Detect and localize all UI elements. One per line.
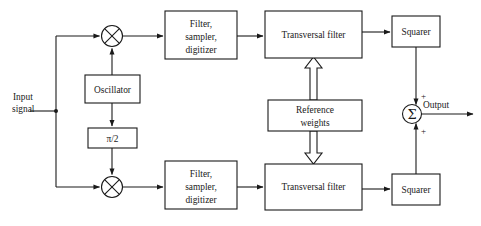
block-label-squarer-top: Squarer	[401, 27, 431, 37]
block-filter-sampler-digitizer-bottom[interactable]: Filter, sampler, digitizer	[165, 161, 237, 209]
labels-layer: Input signal Output + +	[12, 91, 449, 136]
block-oscillator[interactable]: Oscillator	[85, 75, 140, 103]
plus-sign-top: +	[421, 91, 426, 101]
junction-dot-input	[54, 109, 58, 113]
blocks-layer: Filter, sampler, digitizer Transversal f…	[85, 11, 440, 210]
plus-sign-bottom: +	[421, 126, 426, 136]
block-label-filter-top-line2: sampler,	[185, 32, 217, 42]
block-label-transversal-top: Transversal filter	[282, 30, 347, 40]
input-signal-label-line2: signal	[12, 104, 35, 114]
block-label-oscillator: Oscillator	[94, 85, 132, 95]
block-arrow-weights-to-transversal-top	[305, 57, 322, 100]
block-transversal-filter-top[interactable]: Transversal filter	[265, 11, 362, 58]
block-filter-sampler-digitizer-top[interactable]: Filter, sampler, digitizer	[165, 11, 237, 59]
block-label-squarer-bottom: Squarer	[401, 185, 431, 195]
block-label-filter-top-line1: Filter,	[190, 19, 212, 29]
block-diagram: Filter, sampler, digitizer Transversal f…	[0, 0, 481, 226]
block-reference-weights[interactable]: Reference weights	[268, 100, 362, 131]
block-label-phase-shifter: π/2	[106, 134, 118, 144]
output-label: Output	[423, 100, 449, 110]
block-phase-shifter[interactable]: π/2	[88, 128, 137, 148]
block-squarer-top[interactable]: Squarer	[392, 16, 440, 47]
block-squarer-bottom[interactable]: Squarer	[392, 174, 440, 205]
block-transversal-filter-bottom[interactable]: Transversal filter	[265, 164, 362, 210]
diagram-canvas: Filter, sampler, digitizer Transversal f…	[0, 0, 481, 226]
summer-icon[interactable]: Σ	[403, 105, 422, 124]
block-arrow-weights-to-transversal-bottom	[305, 131, 322, 164]
input-signal-label-line1: Input	[13, 92, 33, 102]
block-label-transversal-bottom: Transversal filter	[282, 182, 347, 192]
summer-sigma-glyph: Σ	[407, 107, 416, 122]
block-label-filter-top-line3: digitizer	[185, 45, 217, 55]
block-label-reference-weights-line2: weights	[300, 118, 330, 128]
block-label-filter-bottom-line2: sampler,	[185, 182, 217, 192]
block-label-filter-bottom-line3: digitizer	[185, 195, 217, 205]
block-label-filter-bottom-line1: Filter,	[190, 169, 212, 179]
mixer-bottom-icon[interactable]	[102, 177, 123, 198]
mixer-top-icon[interactable]	[102, 26, 123, 47]
block-label-reference-weights-line1: Reference	[296, 105, 334, 115]
